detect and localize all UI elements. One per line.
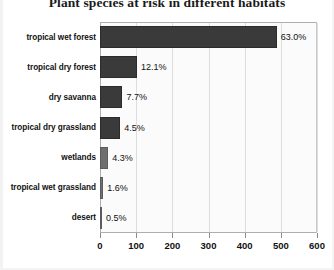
x-axis-tick [100,233,101,238]
bar-value-label: 63.0% [281,32,307,42]
x-axis-tick-label: 300 [201,240,217,251]
category-label: desert [0,213,96,222]
bar-row: tropical wet grassland1.6% [0,173,334,203]
bar-row: tropical dry grassland4.5% [0,113,334,143]
x-axis-tick [245,233,246,238]
bar-row: wetlands4.3% [0,143,334,173]
bar-row: dry savanna7.7% [0,82,334,112]
x-axis-tick-label: 600 [309,240,325,251]
x-axis-tick [136,233,137,238]
x-axis-tick-label: 200 [164,240,180,251]
x-axis-tick [172,233,173,238]
category-label: tropical dry grassland [0,123,96,132]
x-axis-tick [317,233,318,238]
x-axis-tick-label: 100 [128,240,144,251]
bar-row: tropical dry forest12.1% [0,52,334,82]
bar [100,26,277,48]
bar [100,117,120,139]
bar-value-label: 1.6% [107,183,128,193]
x-axis: 0100200300400500600 [100,233,317,259]
bar [100,207,102,229]
bar-row: desert0.5% [0,203,334,233]
bar-value-label: 4.3% [112,153,133,163]
category-label: tropical dry forest [0,63,96,72]
bar-chart: Plant species at risk in different habit… [0,0,334,270]
x-axis-tick-label: 0 [97,240,102,251]
category-label: tropical wet grassland [0,183,96,192]
bar-value-label: 0.5% [106,213,127,223]
bar-row: tropical wet forest63.0% [0,22,334,52]
bar [100,56,137,78]
category-label: tropical wet forest [0,33,96,42]
bar [100,147,108,169]
category-label: dry savanna [0,93,96,102]
bar-value-label: 12.1% [141,62,167,72]
x-axis-tick [209,233,210,238]
chart-title: Plant species at risk in different habit… [0,0,334,11]
bar-rows: tropical wet forest63.0%tropical dry for… [0,22,334,233]
bar-value-label: 7.7% [126,92,147,102]
bar [100,177,103,199]
x-axis-tick-label: 500 [273,240,289,251]
category-label: wetlands [0,153,96,162]
x-axis-tick [281,233,282,238]
bar [100,86,122,108]
bar-value-label: 4.5% [124,123,145,133]
x-axis-tick-label: 400 [237,240,253,251]
